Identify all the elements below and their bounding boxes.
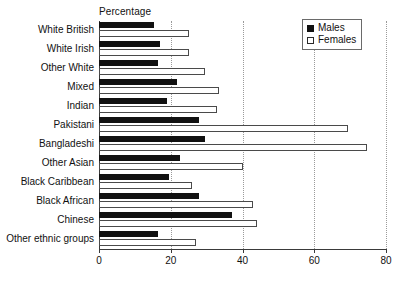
legend-swatch-females-icon bbox=[307, 37, 314, 44]
bar-females bbox=[99, 125, 348, 132]
bar-group bbox=[99, 135, 386, 154]
bar-females bbox=[99, 201, 253, 208]
legend-swatch-males-icon bbox=[307, 25, 314, 32]
bar-group bbox=[99, 78, 386, 97]
x-tick-60 bbox=[314, 249, 315, 253]
bar-males bbox=[99, 174, 169, 180]
category-label: White Irish bbox=[47, 43, 94, 54]
legend-entry-females: Females bbox=[307, 34, 356, 46]
legend-entry-males: Males bbox=[307, 22, 356, 34]
category-label: Pakistani bbox=[53, 119, 94, 130]
bar-males bbox=[99, 98, 167, 104]
bar-males bbox=[99, 60, 158, 66]
x-axis-title: Percentage bbox=[99, 6, 151, 17]
x-tick-40 bbox=[243, 249, 244, 253]
bar-group bbox=[99, 211, 386, 230]
legend-label-males: Males bbox=[318, 22, 345, 34]
bar-females bbox=[99, 144, 367, 151]
plot-area bbox=[99, 21, 386, 249]
category-label: Other ethnic groups bbox=[6, 233, 94, 244]
bar-males bbox=[99, 41, 160, 47]
x-tick-0 bbox=[99, 249, 100, 253]
bar-females bbox=[99, 30, 189, 37]
bar-group bbox=[99, 97, 386, 116]
category-label: Other White bbox=[41, 62, 94, 73]
bar-females bbox=[99, 182, 192, 189]
bar-females bbox=[99, 87, 219, 94]
category-label: Chinese bbox=[57, 214, 94, 225]
gridline-80 bbox=[386, 21, 387, 249]
bar-males bbox=[99, 231, 158, 237]
bar-females bbox=[99, 49, 189, 56]
bar-chart-figure: Percentage White BritishWhite IrishOther… bbox=[0, 0, 409, 284]
bar-group bbox=[99, 230, 386, 249]
bar-males bbox=[99, 22, 154, 28]
x-tick-label-40: 40 bbox=[237, 255, 248, 266]
legend-label-females: Females bbox=[318, 34, 356, 46]
bar-males bbox=[99, 79, 177, 85]
bar-females bbox=[99, 106, 217, 113]
bar-males bbox=[99, 212, 232, 218]
category-label: Black African bbox=[36, 195, 94, 206]
chart-legend: Males Females bbox=[302, 19, 362, 50]
bar-group bbox=[99, 116, 386, 135]
category-label: White British bbox=[38, 24, 94, 35]
x-tick-20 bbox=[171, 249, 172, 253]
x-tick-label-80: 80 bbox=[380, 255, 391, 266]
bar-females bbox=[99, 68, 205, 75]
category-label: Mixed bbox=[67, 81, 94, 92]
x-tick-label-0: 0 bbox=[96, 255, 102, 266]
x-tick-label-60: 60 bbox=[309, 255, 320, 266]
category-label: Bangladeshi bbox=[39, 138, 94, 149]
x-tick-80 bbox=[386, 249, 387, 253]
category-label-axis: White BritishWhite IrishOther WhiteMixed… bbox=[0, 21, 94, 249]
bar-group bbox=[99, 59, 386, 78]
category-label: Other Asian bbox=[42, 157, 94, 168]
category-label: Indian bbox=[67, 100, 94, 111]
bar-group bbox=[99, 173, 386, 192]
bar-group bbox=[99, 192, 386, 211]
bar-females bbox=[99, 163, 243, 170]
bar-males bbox=[99, 155, 180, 161]
bar-males bbox=[99, 136, 205, 142]
bar-females bbox=[99, 220, 257, 227]
bar-group bbox=[99, 154, 386, 173]
category-label: Black Caribbean bbox=[21, 176, 94, 187]
bar-males bbox=[99, 193, 199, 199]
x-tick-label-20: 20 bbox=[165, 255, 176, 266]
bar-females bbox=[99, 239, 196, 246]
bar-males bbox=[99, 117, 199, 123]
